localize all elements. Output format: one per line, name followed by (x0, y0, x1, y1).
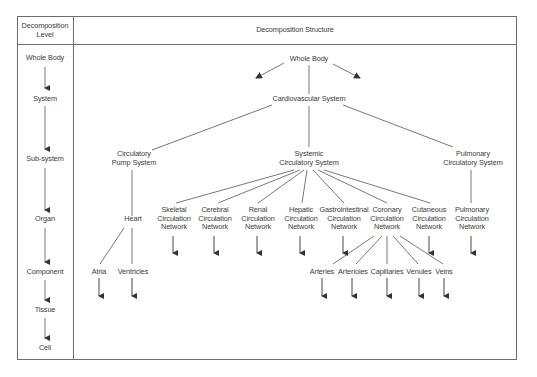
node-renal-circulation-network: Renal Circulation Network (241, 206, 274, 232)
node-line: Network (241, 223, 274, 232)
level-component: Component (27, 268, 64, 277)
level-tissue: Tissue (35, 306, 56, 315)
node-line: Network (412, 223, 446, 232)
node-ventricles: Ventricles (118, 268, 149, 277)
level-cell: Cell (39, 344, 51, 353)
level-system: System (33, 95, 57, 104)
node-hepatic-circulation-network: Hepatic Circulation Network (284, 206, 317, 232)
node-systemic-circulatory-system: Systemic Circulatory System (279, 150, 338, 167)
node-line: Network (370, 223, 403, 232)
node-cardiovascular-system: Cardiovascular System (273, 95, 346, 104)
node-line: Network (198, 223, 231, 232)
node-whole-body: Whole Body (290, 55, 328, 64)
node-line: Circulatory System (279, 159, 338, 168)
connector-lines (0, 0, 537, 377)
node-pulmonary-circulatory-system: Pulmonary Circulatory System (443, 150, 502, 167)
node-skeletal-circulation-network: Skeletal Circulation Network (157, 206, 190, 232)
header-decomposition-structure: Decomposition Structure (256, 26, 334, 35)
header-decomposition-level: Decomposition Level (22, 22, 69, 39)
node-line: Network (284, 223, 317, 232)
node-capillaries: Capillaries (371, 268, 404, 277)
level-whole-body: Whole Body (26, 54, 64, 63)
level-organ: Organ (35, 215, 55, 224)
node-gastrointestinal-circulation-network: Gastrointestinal Circulation Network (319, 206, 368, 232)
node-line: Network (157, 223, 190, 232)
node-line: Network (455, 223, 489, 232)
node-circulatory-pump-system: Circulatory Pump System (112, 150, 156, 167)
node-line: Pump System (112, 159, 156, 168)
node-pulmonary-circulation-network: Pulmonary Circulation Network (455, 206, 489, 232)
level-sub-system: Sub-system (26, 155, 64, 164)
node-line: Circulatory System (443, 159, 502, 168)
node-arteries: Arteries (310, 268, 334, 277)
node-cerebral-circulation-network: Cerebral Circulation Network (198, 206, 231, 232)
node-cutaneous-circulation-network: Cutaneous Circulation Network (412, 206, 446, 232)
node-arterioles: Arterioles (338, 268, 368, 277)
node-line: Network (319, 223, 368, 232)
node-venules: Venules (406, 268, 431, 277)
node-veins: Veins (435, 268, 452, 277)
node-heart: Heart (124, 215, 141, 224)
node-atria: Atria (92, 268, 107, 277)
header-line: Level (22, 31, 69, 40)
node-coronary-circulation-network: Coronary Circulation Network (370, 206, 403, 232)
